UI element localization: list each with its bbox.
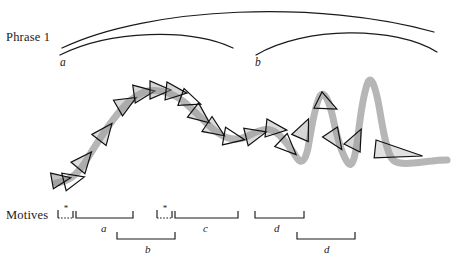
motive-bracket-d-1 <box>255 211 304 218</box>
svg-text:*: * <box>64 203 69 213</box>
figure-root: Phrase 1 Motives a b a b c d d <box>0 0 476 263</box>
figure-canvas: * * <box>0 0 476 263</box>
inner-arc-b <box>256 33 437 55</box>
phrase-arcs <box>60 12 437 55</box>
arrow-glyph <box>222 127 246 148</box>
arrow-glyph-group <box>51 81 424 191</box>
motive-bracket-d-2 <box>297 232 355 239</box>
motive-bracket-c <box>175 211 238 218</box>
svg-text:*: * <box>163 203 168 213</box>
motive-bracket-b <box>117 232 175 239</box>
motive-brackets: * * <box>58 203 355 239</box>
motive-tick-2: * <box>157 203 172 218</box>
outer-phrase-arc <box>62 12 434 48</box>
motive-bracket-a <box>76 211 133 218</box>
motive-tick-1: * <box>58 203 73 218</box>
